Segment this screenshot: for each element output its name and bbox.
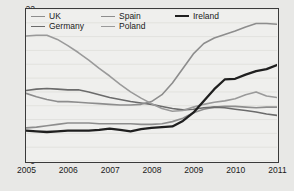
x-tick-2009: 2009 xyxy=(184,166,203,175)
x-tick-2010: 2010 xyxy=(226,166,245,175)
series-line-poland xyxy=(26,35,277,111)
x-tick-2008: 2008 xyxy=(143,166,162,175)
unemployment-rate-line-chart: 0246810121416182022 20052006200720082009… xyxy=(0,0,294,191)
gridlines xyxy=(26,9,277,161)
series-line-ireland xyxy=(26,65,277,132)
series-lines-svg xyxy=(26,9,277,161)
x-tick-2007: 2007 xyxy=(101,166,120,175)
x-tick-2006: 2006 xyxy=(59,166,78,175)
x-tick-2005: 2005 xyxy=(17,166,36,175)
x-tick-2011: 2011 xyxy=(268,166,286,175)
plot-area xyxy=(25,8,279,163)
